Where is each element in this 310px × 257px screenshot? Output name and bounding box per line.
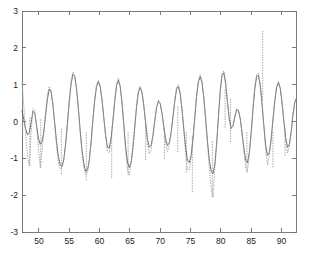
y-axis-labels: -3-2-10123 (10, 6, 18, 237)
y-tick-label: 2 (13, 43, 18, 53)
y-tick-label: -2 (10, 190, 18, 200)
x-tick-label: 70 (155, 236, 165, 246)
x-tick-label: 85 (246, 236, 256, 246)
x-axis-labels: 505560657075808590 (34, 236, 286, 246)
dotted-spikes (23, 31, 285, 197)
x-tick-label: 90 (277, 236, 287, 246)
x-tick-label: 80 (216, 236, 226, 246)
x-axis-ticks (39, 11, 281, 232)
x-tick-label: 60 (95, 236, 105, 246)
figure-container: 505560657075808590 -3-2-10123 (0, 0, 310, 257)
x-tick-label: 65 (125, 236, 135, 246)
data-series (22, 71, 296, 197)
x-tick-label: 50 (34, 236, 44, 246)
y-tick-label: 1 (13, 80, 18, 90)
y-axis-ticks (22, 11, 296, 232)
x-tick-label: 75 (186, 236, 196, 246)
y-tick-label: -3 (10, 227, 18, 237)
y-tick-label: -1 (10, 153, 18, 163)
y-tick-label: 0 (13, 117, 18, 127)
line-chart: 505560657075808590 -3-2-10123 (0, 0, 310, 257)
x-tick-label: 55 (65, 236, 75, 246)
plot-frame (22, 11, 296, 232)
axes-box (22, 11, 296, 232)
y-tick-label: 3 (13, 6, 18, 16)
